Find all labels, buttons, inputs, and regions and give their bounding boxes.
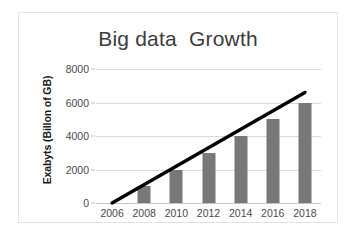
y-tick-mark	[91, 102, 95, 103]
x-axis-ticks: 2006200820102012201420162018	[96, 207, 321, 223]
y-tick-mark	[91, 136, 95, 137]
chart-title: Big data Growth	[19, 27, 337, 51]
x-tick-label: 2010	[165, 207, 188, 219]
y-tick-label: 4000	[66, 130, 89, 142]
x-tick-label: 2012	[197, 207, 220, 219]
y-tick-label: 8000	[66, 63, 89, 75]
y-axis-title: Exabyts (Billon of GB)	[41, 61, 55, 199]
y-tick-mark	[91, 169, 95, 170]
gridline	[96, 203, 321, 204]
x-tick-label: 2008	[133, 207, 156, 219]
trend-line	[96, 69, 321, 203]
y-tick-mark	[91, 203, 95, 204]
y-tick-label: 0	[83, 197, 89, 209]
x-tick-label: 2006	[100, 207, 123, 219]
plot-area: 02000400060008000	[96, 69, 321, 203]
y-tick-mark	[91, 69, 95, 70]
x-tick-label: 2016	[261, 207, 284, 219]
y-tick-label: 6000	[66, 97, 89, 109]
x-tick-label: 2014	[229, 207, 252, 219]
y-tick-label: 2000	[66, 164, 89, 176]
x-tick-label: 2018	[293, 207, 316, 219]
chart-frame: Big data Growth Exabyts (Billon of GB) 0…	[18, 12, 338, 223]
